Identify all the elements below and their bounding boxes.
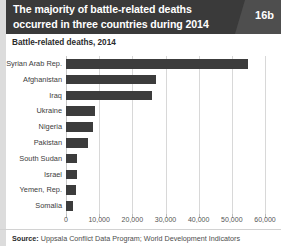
- x-tick-label: 60,000: [254, 216, 275, 223]
- bar: [66, 170, 77, 180]
- bar-row: Somalia: [0, 198, 281, 214]
- bar: [66, 201, 73, 211]
- x-axis-tick-labels: 010,00020,00030,00040,00050,00060,000: [0, 216, 281, 228]
- bar-row: South Sudan: [0, 151, 281, 167]
- bar: [66, 154, 77, 164]
- chart-plot: Syrian Arab Rep.AfghanistanIraqUkraineNi…: [0, 56, 281, 214]
- bar-row: Ukraine: [0, 103, 281, 119]
- x-tick-label: 10,000: [88, 216, 109, 223]
- x-tick-label: 20,000: [122, 216, 143, 223]
- category-label: Yemen, Rep.: [0, 182, 62, 198]
- figure-number-label: 16b: [255, 9, 274, 21]
- bar: [66, 59, 248, 69]
- bar: [66, 185, 76, 195]
- bar: [66, 91, 152, 101]
- category-label: Somalia: [0, 198, 62, 214]
- bar: [66, 122, 93, 132]
- category-label: Pakistan: [0, 135, 62, 151]
- bar-row: Pakistan: [0, 135, 281, 151]
- x-tick-label: 40,000: [188, 216, 209, 223]
- bar: [66, 138, 88, 148]
- x-tick-label: 50,000: [221, 216, 242, 223]
- category-label: South Sudan: [0, 151, 62, 167]
- category-label: Ukraine: [0, 103, 62, 119]
- bar-row: Iraq: [0, 88, 281, 104]
- bar-row: Nigeria: [0, 119, 281, 135]
- source-label: Source:: [12, 234, 39, 243]
- figure-header: The majority of battle-related deaths oc…: [6, 0, 281, 34]
- x-tick-label: 0: [64, 216, 68, 223]
- x-tick-label: 30,000: [155, 216, 176, 223]
- category-label: Iraq: [0, 88, 62, 104]
- bar-row: Israel: [0, 167, 281, 183]
- category-label: Afghanistan: [0, 72, 62, 88]
- figure-panel: The majority of battle-related deaths oc…: [0, 0, 281, 246]
- figure-title: The majority of battle-related deaths oc…: [13, 2, 223, 32]
- category-label: Nigeria: [0, 119, 62, 135]
- chart-subtitle: Battle-related deaths, 2014: [12, 38, 116, 47]
- bar-row: Syrian Arab Rep.: [0, 56, 281, 72]
- category-label: Israel: [0, 167, 62, 183]
- bar-row: Afghanistan: [0, 72, 281, 88]
- source-note: Source: Uppsala Conflict Data Program; W…: [12, 234, 240, 243]
- source-text: Uppsala Conflict Data Program; World Dev…: [41, 234, 240, 243]
- bar: [66, 75, 156, 85]
- bar-row: Yemen, Rep.: [0, 182, 281, 198]
- category-label: Syrian Arab Rep.: [0, 56, 62, 72]
- bar: [66, 106, 95, 116]
- figure-footer: Source: Uppsala Conflict Data Program; W…: [0, 229, 281, 246]
